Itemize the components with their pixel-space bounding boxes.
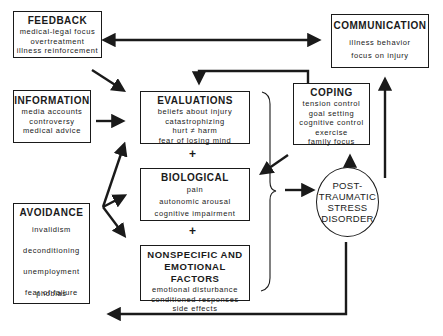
ptsd-circle: POST- TRAUMATIC STRESS DISORDER <box>316 167 379 237</box>
coping-item: family focus <box>294 137 369 147</box>
avoidance-item: invalidism <box>14 219 89 240</box>
coping-item: exercise <box>294 128 369 138</box>
coping-box: COPING tension control goal setting cogn… <box>293 83 370 145</box>
avoidance-item: deconditioning <box>14 240 89 261</box>
biological-item: autonomic arousal <box>141 196 249 208</box>
nonspecific-item: side effects <box>141 304 249 314</box>
biological-box: BIOLOGICAL pain autonomic arousal cognit… <box>140 168 250 221</box>
feedback-box: FEEDBACK medical-legal focus overtreatme… <box>13 11 102 58</box>
information-item: media accounts <box>14 107 90 117</box>
nonspecific-item: emotional disturbance <box>141 285 249 295</box>
ptsd-line: DISORDER <box>321 213 374 224</box>
communication-title: COMMUNICATION <box>332 20 428 32</box>
plus-operator: + <box>189 224 196 238</box>
evaluations-item: fear of losing mind <box>141 136 249 146</box>
coping-title: COPING <box>294 87 369 99</box>
feedback-title: FEEDBACK <box>14 15 101 27</box>
information-item: controversy <box>14 117 90 127</box>
communication-item: illness behavior <box>332 36 428 49</box>
information-box: INFORMATION media accounts controversy m… <box>13 90 91 143</box>
information-title: INFORMATION <box>14 95 90 107</box>
biological-item: pain <box>141 184 249 196</box>
emotional-factors-title: EMOTIONAL FACTORS <box>141 261 249 285</box>
nonspecific-title: NONSPECIFIC AND <box>141 249 249 261</box>
biological-item: cognitive impairment <box>141 208 249 220</box>
ptsd-line: POST- <box>332 180 362 191</box>
information-item: medical advice <box>14 126 90 136</box>
avoidance-item: phobias <box>13 289 90 299</box>
feedback-item: illness reinforcement <box>14 46 101 56</box>
ptsd-line: TRAUMATIC <box>319 191 376 202</box>
evaluations-item: catastrophizing <box>141 117 249 127</box>
evaluations-title: EVALUATIONS <box>141 95 249 107</box>
communication-box: COMMUNICATION illness behavior focus on … <box>331 14 429 68</box>
biological-title: BIOLOGICAL <box>141 172 249 184</box>
coping-item: goal setting <box>294 109 369 119</box>
avoidance-item: unemployment <box>14 261 89 282</box>
feedback-item: medical-legal focus <box>14 27 101 37</box>
coping-item: cognitive control <box>294 118 369 128</box>
evaluations-box: EVALUATIONS beliefs about injury catastr… <box>140 91 250 144</box>
feedback-item: overtreatment <box>14 37 101 47</box>
coping-item: tension control <box>294 99 369 109</box>
nonspecific-item: conditioned responses <box>141 295 249 305</box>
plus-operator: + <box>189 147 196 161</box>
communication-item: focus on injury <box>332 49 428 62</box>
nonspecific-emotional-box: NONSPECIFIC AND EMOTIONAL FACTORS emotio… <box>140 245 250 301</box>
avoidance-title: AVOIDANCE <box>14 207 89 219</box>
evaluations-item: hurt ≠ harm <box>141 126 249 136</box>
ptsd-line: STRESS <box>328 202 368 213</box>
evaluations-item: beliefs about injury <box>141 107 249 117</box>
